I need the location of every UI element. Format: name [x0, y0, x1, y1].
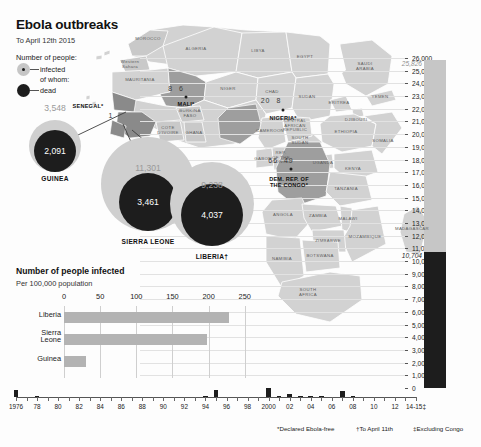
timeline-tick: [332, 397, 333, 401]
bc-bar-liberia: [64, 312, 229, 323]
timeline-tick: [311, 397, 312, 401]
timeline-year-label: 88: [139, 403, 146, 410]
bc-bar-sierra-leone: [64, 334, 207, 345]
bc-category-sierra-leone: Sierra Leone: [40, 329, 61, 344]
outbreak-timeline: 1976788082848688909294969820000204060810…: [16, 384, 416, 418]
bubble-dead-value-guinea: 2,091: [44, 146, 66, 156]
infographic-root: .land{fill:#d2d2d2;stroke:#ffffff;stroke…: [0, 0, 481, 447]
bubble-dead-value-liberia: 4,037: [201, 210, 223, 220]
timeline-tick: [321, 397, 322, 401]
timeline-tick: [269, 397, 270, 401]
footnote-1: †To April 11th: [356, 425, 393, 432]
timeline-tick: [374, 397, 375, 401]
bubble-name-liberia: LIBERIA†: [196, 253, 228, 260]
timeline-year-label: 2000: [262, 403, 276, 410]
timeline-year-label: 86: [118, 403, 125, 410]
timeline-tick: [174, 397, 175, 401]
timeline-tick: [405, 397, 406, 401]
timeline-year-label: 98: [244, 403, 251, 410]
bubble-name-sierraleone: SIERRA LEONE: [122, 238, 175, 245]
infection-rate-plot: 050100150200250: [64, 306, 252, 378]
timeline-tick: [37, 397, 38, 401]
timeline-year-label: 90: [160, 403, 167, 410]
bc-tick-label: 0: [62, 292, 66, 301]
timeline-tick: [290, 397, 291, 401]
timeline-tick: [342, 397, 343, 401]
timeline-year-label: 92: [181, 403, 188, 410]
timeline-tick: [227, 397, 228, 401]
bubble-infected-value-sierraleone: 11,301: [135, 163, 161, 173]
bc-category-liberia: Liberia: [39, 311, 61, 318]
timeline-bar: [214, 390, 219, 397]
timeline-tick: [300, 397, 301, 401]
timeline-tick: [237, 397, 238, 401]
bubble-name-guinea: GUINEA: [41, 175, 68, 182]
timeline-tick: [353, 397, 354, 401]
timeline-tick: [184, 397, 185, 401]
timeline-tick: [163, 397, 164, 401]
timeline-tick: [111, 397, 112, 401]
timeline-tick: [27, 397, 28, 401]
infection-rate-chart-subtitle: Per 100,000 population: [16, 279, 92, 288]
timeline-tick: [258, 397, 259, 401]
bubble-infected-value-guinea: 3,548: [44, 103, 66, 113]
timeline-tick: [69, 397, 70, 401]
bc-bar-guinea: [64, 356, 86, 367]
timeline-tick: [363, 397, 364, 401]
bc-tick-label: 150: [166, 292, 178, 301]
timeline-tick: [90, 397, 91, 401]
bc-tick-label: 50: [96, 292, 104, 301]
timeline-year-label: 1976: [9, 403, 23, 410]
bc-tick-label: 200: [202, 292, 214, 301]
footnote-2: ‡Excluding Congo: [413, 425, 463, 432]
timeline-year-label: 96: [223, 403, 230, 410]
timeline-year-label: 06: [328, 403, 335, 410]
timeline-year-label: 12: [391, 403, 398, 410]
bubble-infected-value-liberia: 9,238: [201, 180, 223, 190]
timeline-bars: [16, 384, 416, 397]
timeline-tick: [142, 397, 143, 401]
timeline-tick: [416, 397, 417, 401]
timeline-tick: [248, 397, 249, 401]
timeline-year-label: 84: [97, 403, 104, 410]
timeline-year-label: 04: [307, 403, 314, 410]
timeline-tick: [216, 397, 217, 401]
timeline-year-label: 82: [76, 403, 83, 410]
bc-gridline: [245, 306, 246, 378]
bubble-dead-value-sierraleone: 3,461: [137, 197, 159, 207]
timeline-year-label: 08: [349, 403, 356, 410]
timeline-year-label: 94: [202, 403, 209, 410]
bc-tick-label: 100: [130, 292, 142, 301]
infection-rate-chart-title: Number of people infected: [16, 266, 124, 276]
timeline-tick: [195, 397, 196, 401]
timeline-year-label: 02: [286, 403, 293, 410]
timeline-tick: [16, 397, 17, 401]
infection-rate-categories: LiberiaSierra LeoneGuinea: [16, 306, 61, 378]
bc-category-guinea: Guinea: [37, 355, 61, 362]
timeline-year-label: 80: [55, 403, 62, 410]
timeline-tick: [205, 397, 206, 401]
footnote-0: *Declared Ebola-free: [277, 425, 334, 432]
bc-tick-label: 250: [239, 292, 251, 301]
timeline-tick: [153, 397, 154, 401]
timeline-year-label: 10: [370, 403, 377, 410]
timeline-tick: [132, 397, 133, 401]
timeline-tick: [48, 397, 49, 401]
timeline-year-label: 14-15‡: [406, 403, 426, 410]
timeline-tick: [79, 397, 80, 401]
timeline-bar: [266, 388, 271, 397]
timeline-year-label: 78: [33, 403, 40, 410]
infection-rate-chart: Number of people infected Per 100,000 po…: [16, 266, 262, 378]
timeline-tick: [279, 397, 280, 401]
timeline-bar: [14, 390, 19, 397]
timeline-tick: [384, 397, 385, 401]
timeline-tick: [395, 397, 396, 401]
timeline-tick: [58, 397, 59, 401]
timeline-tick: [121, 397, 122, 401]
timeline-tick: [100, 397, 101, 401]
